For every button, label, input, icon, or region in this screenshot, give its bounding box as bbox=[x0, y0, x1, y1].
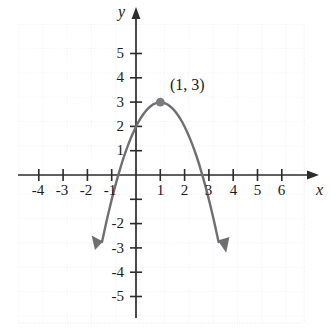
x-tick-label--1: -1 bbox=[97, 183, 123, 198]
graph-figure: y x (1, 3) -4 -3 -2 -1 1 2 3 4 5 6 5 4 3… bbox=[0, 0, 331, 332]
y-tick-label--2: -2 bbox=[98, 216, 124, 231]
x-tick-label-4: 4 bbox=[225, 183, 242, 198]
y-tick-label-3: 3 bbox=[106, 95, 124, 110]
x-tick-label-3: 3 bbox=[200, 183, 217, 198]
y-tick-label--5: -5 bbox=[98, 289, 124, 304]
y-tick-label--4: -4 bbox=[98, 265, 124, 280]
x-tick-label-6: 6 bbox=[273, 183, 290, 198]
vertex-coordinate-label: (1, 3) bbox=[170, 77, 205, 93]
y-tick-label-1: 1 bbox=[106, 143, 124, 158]
y-tick-label--3: -3 bbox=[98, 241, 124, 256]
vertex-point bbox=[156, 98, 165, 107]
x-tick-label--3: -3 bbox=[49, 183, 75, 198]
x-axis-label: x bbox=[316, 182, 323, 198]
y-tick-label-4: 4 bbox=[106, 70, 124, 85]
x-tick-label-5: 5 bbox=[249, 183, 266, 198]
x-tick-label-1: 1 bbox=[152, 183, 169, 198]
grid-lines bbox=[18, 24, 304, 323]
x-tick-label--2: -2 bbox=[73, 183, 99, 198]
y-tick-label-5: 5 bbox=[106, 46, 124, 61]
y-axis-label: y bbox=[118, 4, 125, 20]
y-tick-label-2: 2 bbox=[106, 119, 124, 134]
x-tick-label-2: 2 bbox=[176, 183, 193, 198]
x-tick-label--4: -4 bbox=[25, 183, 51, 198]
coordinate-plane bbox=[0, 0, 331, 332]
